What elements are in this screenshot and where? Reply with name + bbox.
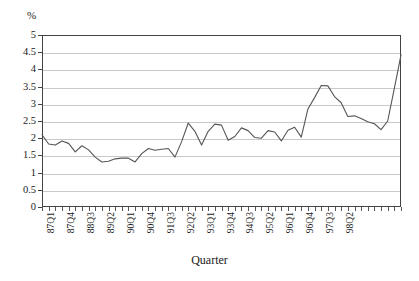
- y-axis-tick-label: 1.5: [2, 149, 36, 160]
- x-axis-tick-mark: [142, 207, 143, 211]
- x-axis-tick-label: 93Q1: [206, 212, 216, 233]
- x-axis-tick-label: 91Q3: [166, 212, 176, 233]
- x-axis-tick-label: 96Q4: [305, 212, 315, 233]
- x-axis-tick-label: 95Q2: [265, 212, 275, 233]
- x-axis-tick-mark: [195, 207, 196, 211]
- x-axis-tick-label: 98Q2: [345, 212, 355, 233]
- x-axis-title: Quarter: [0, 253, 419, 267]
- x-axis-tick-mark: [275, 207, 276, 211]
- x-axis-tick-mark: [288, 207, 289, 211]
- x-axis-tick-label: 94Q3: [245, 212, 255, 233]
- x-axis-tick-mark: [75, 207, 76, 211]
- x-axis-tick-mark: [341, 207, 342, 211]
- x-axis-tick-mark: [335, 207, 336, 211]
- x-axis-tick-mark: [49, 207, 50, 211]
- x-axis-tick-label: 88Q3: [86, 212, 96, 233]
- y-axis-tick-label: 0: [2, 201, 36, 212]
- x-axis-tick-mark: [381, 207, 382, 211]
- x-axis-tick-mark: [401, 207, 402, 211]
- x-axis-tick-mark: [148, 207, 149, 211]
- x-axis-tick-mark: [135, 207, 136, 211]
- y-axis-tick-label: 2.5: [2, 115, 36, 126]
- x-axis-tick-label: 89Q2: [106, 212, 116, 233]
- x-axis-tick-mark: [295, 207, 296, 211]
- x-axis-tick-mark: [241, 207, 242, 211]
- x-axis-tick-mark: [315, 207, 316, 211]
- y-axis-tick-label: 3: [2, 98, 36, 109]
- x-axis-tick-mark: [281, 207, 282, 211]
- x-axis-tick-mark: [215, 207, 216, 211]
- data-series-line: [42, 35, 401, 207]
- x-axis-tick-mark: [308, 207, 309, 211]
- x-axis-tick-mark: [122, 207, 123, 211]
- x-axis-tick-mark: [388, 207, 389, 211]
- x-axis-tick-mark: [255, 207, 256, 211]
- x-axis-tick-mark: [348, 207, 349, 211]
- x-axis-tick-mark: [261, 207, 262, 211]
- y-axis-tick-label: 3.5: [2, 81, 36, 92]
- x-axis-tick-label: 87Q1: [46, 212, 56, 233]
- x-axis-tick-mark: [374, 207, 375, 211]
- x-axis-tick-label: 96Q1: [285, 212, 295, 233]
- y-axis-tick-label: 2: [2, 132, 36, 143]
- x-axis-tick-mark: [301, 207, 302, 211]
- x-axis-tick-mark: [155, 207, 156, 211]
- x-axis-tick-mark: [321, 207, 322, 211]
- x-axis-tick-mark: [202, 207, 203, 211]
- x-axis-tick-mark: [95, 207, 96, 211]
- y-axis-tick-label: 4.5: [2, 46, 36, 57]
- y-axis-unit-label: %: [27, 9, 36, 21]
- x-axis-tick-label: 97Q3: [325, 212, 335, 233]
- y-axis-tick-label: 0.5: [2, 184, 36, 195]
- x-axis-tick-label: 93Q4: [226, 212, 236, 233]
- x-axis-tick-mark: [102, 207, 103, 211]
- x-axis-tick-mark: [128, 207, 129, 211]
- x-axis-tick-mark: [62, 207, 63, 211]
- x-axis-tick-label: 90Q1: [126, 212, 136, 233]
- x-axis-tick-mark: [82, 207, 83, 211]
- x-axis-tick-mark: [208, 207, 209, 211]
- chart-container: % 00.511.522.533.544.55 87Q187Q488Q389Q2…: [0, 0, 419, 281]
- x-axis-tick-mark: [361, 207, 362, 211]
- x-axis-tick-mark: [235, 207, 236, 211]
- x-axis-tick-mark: [69, 207, 70, 211]
- x-axis-tick-mark: [162, 207, 163, 211]
- x-axis-tick-mark: [188, 207, 189, 211]
- x-axis-tick-mark: [168, 207, 169, 211]
- y-axis-tick-label: 4: [2, 63, 36, 74]
- y-axis-tick-label: 5: [2, 29, 36, 40]
- x-axis-tick-mark: [228, 207, 229, 211]
- x-axis-tick-mark: [355, 207, 356, 211]
- x-axis-tick-mark: [268, 207, 269, 211]
- x-axis-tick-mark: [115, 207, 116, 211]
- x-axis-tick-mark: [89, 207, 90, 211]
- x-axis-tick-label: 87Q4: [66, 212, 76, 233]
- x-axis-tick-mark: [328, 207, 329, 211]
- x-axis-tick-mark: [55, 207, 56, 211]
- x-axis-tick-mark: [182, 207, 183, 211]
- x-axis-tick-mark: [175, 207, 176, 211]
- x-axis-tick-mark: [248, 207, 249, 211]
- x-axis-tick-label: 90Q4: [146, 212, 156, 233]
- x-axis-tick-mark: [368, 207, 369, 211]
- x-axis-tick-mark: [42, 207, 43, 211]
- x-axis-tick-label: 92Q2: [186, 212, 196, 233]
- x-axis-tick-mark: [109, 207, 110, 211]
- y-axis-tick-label: 1: [2, 167, 36, 178]
- x-axis-tick-mark: [222, 207, 223, 211]
- x-axis-tick-mark: [394, 207, 395, 211]
